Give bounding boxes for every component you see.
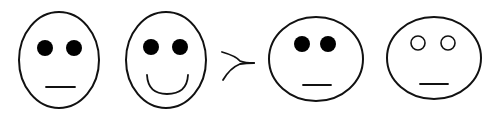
left-eye-filled [37,40,53,56]
left-eye-filled [294,36,310,52]
left-eye-hollow [411,36,425,50]
face-4-hollow-eyes-wide [387,17,481,99]
face-outline [19,12,99,108]
diagram-canvas [0,0,502,117]
face-outline [269,17,363,101]
right-eye-filled [172,39,188,55]
face-2-smiling-tall [126,12,206,108]
right-eye-filled [320,36,336,52]
face-outline [387,17,481,99]
right-eye-hollow [441,36,455,50]
succeeds-symbol [222,52,254,80]
face-3-neutral-wide [269,17,363,101]
right-eye-filled [66,40,82,56]
face-1-neutral-tall [19,12,99,108]
left-eye-filled [143,39,159,55]
